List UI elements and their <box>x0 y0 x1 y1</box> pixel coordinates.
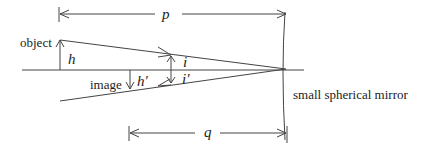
h-prime-label: h′ <box>137 73 149 89</box>
i-prime-label: i′ <box>182 71 190 87</box>
object-arrow <box>56 40 64 70</box>
p-label: p <box>161 6 170 22</box>
incident-ray <box>60 40 286 69</box>
p-dimension <box>59 7 286 22</box>
spherical-mirror <box>283 12 285 140</box>
incident-ray-arrowhead <box>158 47 171 57</box>
q-label: q <box>204 124 212 140</box>
object-label: object <box>20 35 52 50</box>
mirror-diagram: p object h image h′ i i′ small spherical… <box>0 0 424 150</box>
h-label: h <box>68 51 76 67</box>
i-label: i <box>183 54 187 70</box>
image-arrow <box>126 70 134 89</box>
mirror-label: small spherical mirror <box>293 87 408 102</box>
image-label: image <box>90 77 122 92</box>
